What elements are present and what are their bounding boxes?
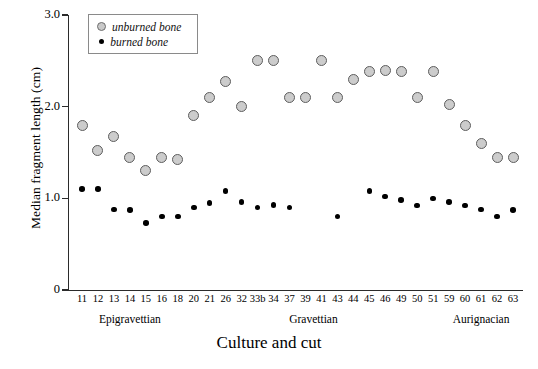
data-point-burned-bone [127, 207, 133, 213]
data-point-burned-bone [95, 186, 101, 192]
legend-box: unburned bone burned bone [88, 14, 198, 54]
legend-item-burned-bone: burned bone [95, 34, 191, 49]
data-point-unburned-bone [268, 55, 279, 66]
data-point-burned-bone [239, 199, 245, 205]
data-point-burned-bone [271, 202, 277, 208]
data-point-unburned-bone [284, 92, 295, 103]
data-point-burned-bone [207, 200, 213, 206]
data-point-burned-bone [478, 207, 484, 213]
data-point-unburned-bone [252, 55, 263, 66]
y-axis-title: Median fragment length (cm) [28, 28, 44, 268]
data-point-unburned-bone [348, 74, 359, 85]
data-point-unburned-bone [460, 120, 471, 131]
data-point-unburned-bone [476, 138, 487, 149]
data-point-burned-bone [494, 214, 500, 220]
data-point-unburned-bone [428, 66, 439, 77]
data-point-burned-bone [143, 220, 149, 226]
x-axis-line [68, 290, 523, 291]
data-point-unburned-bone [236, 101, 247, 112]
data-point-unburned-bone [380, 65, 391, 76]
data-point-burned-bone [414, 203, 420, 209]
data-point-unburned-bone [77, 120, 88, 131]
data-point-unburned-bone [364, 66, 375, 77]
data-point-unburned-bone [508, 152, 519, 163]
data-point-unburned-bone [204, 92, 215, 103]
data-point-unburned-bone [172, 154, 183, 165]
y-tick-label: 2.0 [26, 100, 60, 113]
group-label-aurignacian: Aurignacian [416, 313, 538, 325]
data-point-unburned-bone [300, 92, 311, 103]
data-point-unburned-bone [156, 152, 167, 163]
y-tick-mark [62, 106, 68, 107]
data-point-burned-bone [367, 188, 373, 194]
data-point-burned-bone [223, 188, 229, 194]
data-point-burned-bone [191, 205, 197, 211]
data-point-unburned-bone [444, 99, 455, 110]
data-point-burned-bone [335, 214, 341, 220]
y-axis-line [68, 15, 69, 291]
group-label-gravettian: Gravettian [248, 313, 378, 325]
legend-label-unburned: unburned bone [112, 21, 181, 33]
y-tick-mark [62, 289, 68, 290]
data-point-burned-bone [255, 205, 261, 211]
data-point-unburned-bone [220, 76, 231, 87]
data-point-burned-bone [382, 194, 388, 200]
scatter-plot-figure: Median fragment length (cm) 01.02.03.0 u… [0, 0, 538, 369]
y-tick-label: 3.0 [26, 8, 60, 21]
y-tick-mark [62, 14, 68, 15]
data-point-unburned-bone [332, 92, 343, 103]
x-axis-title: Culture and cut [0, 333, 538, 353]
x-tick-label: 63 [500, 293, 526, 305]
data-point-burned-bone [287, 205, 293, 211]
gray-circle-icon [97, 22, 106, 31]
data-point-unburned-bone [92, 145, 103, 156]
data-point-unburned-bone [108, 131, 119, 142]
data-point-burned-bone [462, 203, 468, 209]
black-dot-icon [99, 39, 105, 45]
data-point-unburned-bone [412, 92, 423, 103]
data-point-unburned-bone [492, 152, 503, 163]
y-tick-label: 0 [26, 283, 60, 296]
y-tick-label: 1.0 [26, 191, 60, 204]
data-point-burned-bone [159, 214, 165, 220]
data-point-unburned-bone [316, 55, 327, 66]
legend-label-burned: burned bone [110, 36, 168, 48]
legend-item-unburned-bone: unburned bone [95, 19, 191, 34]
data-point-burned-bone [398, 197, 404, 203]
data-point-burned-bone [79, 186, 85, 192]
data-point-unburned-bone [188, 110, 199, 121]
data-point-burned-bone [430, 196, 436, 202]
data-point-unburned-bone [124, 152, 135, 163]
data-point-burned-bone [446, 199, 452, 205]
data-point-burned-bone [111, 207, 117, 213]
data-point-unburned-bone [396, 66, 407, 77]
group-label-epigravettian: Epigravettian [65, 313, 195, 325]
data-point-burned-bone [175, 214, 181, 220]
data-point-unburned-bone [140, 165, 151, 176]
data-point-burned-bone [510, 207, 516, 213]
y-tick-mark [62, 198, 68, 199]
